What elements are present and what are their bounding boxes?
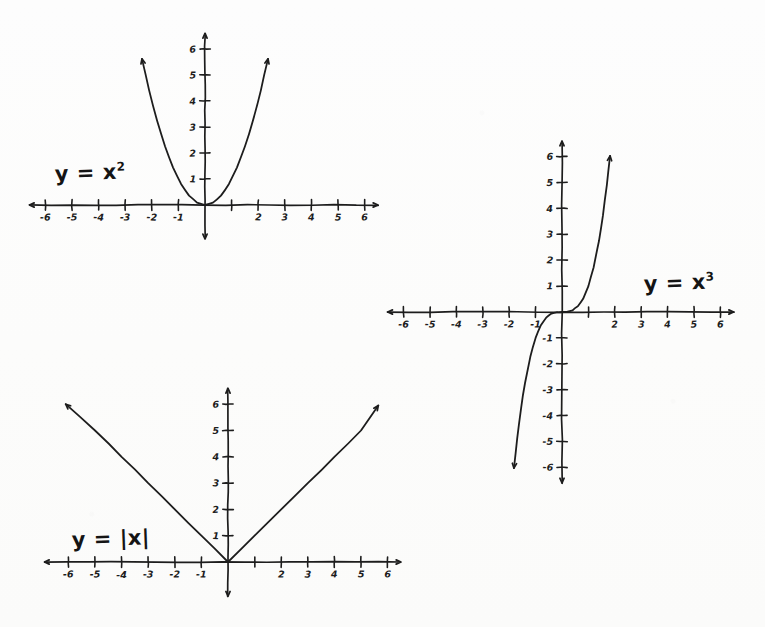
x-tick-label: -5 — [90, 568, 101, 579]
equation-label-cubic: y = x3 — [643, 270, 715, 296]
chart-parabola: -6-5-4-3-2-123456123456y = x2 — [29, 33, 378, 238]
equation-text: y = x2 — [54, 160, 126, 186]
equation-label-parabola: y = x2 — [54, 160, 126, 186]
y-tick-label: 3 — [189, 121, 196, 132]
y-tick-label: 4 — [545, 203, 554, 214]
y-tick-label: -5 — [542, 436, 553, 447]
x-axis-line — [45, 562, 401, 563]
y-tick-label: 2 — [546, 254, 554, 265]
y-tick-label: -6 — [542, 461, 554, 473]
y-tick-label: 6 — [212, 399, 219, 410]
y-axis-absolute-value — [226, 388, 230, 596]
y-axis-parabola — [203, 33, 207, 238]
x-tick-label: -2 — [504, 318, 515, 329]
y-tick-label: 2 — [189, 147, 196, 158]
y-ticks-absolute-value: 123456 — [211, 399, 233, 542]
x-tick-label: 3 — [281, 211, 288, 222]
equation-label-absolute-value: y = |x| — [71, 525, 150, 553]
x-tick-label: 3 — [304, 568, 311, 579]
y-axis-line — [228, 388, 229, 596]
x-tick-label: -6 — [63, 568, 74, 579]
x-tick-label: 5 — [358, 568, 365, 579]
x-tick-label: 2 — [255, 211, 262, 222]
y-tick-label: -1 — [542, 332, 553, 343]
y-tick-label: 2 — [212, 504, 219, 515]
equation-text: y = x3 — [643, 270, 715, 296]
y-tick-label: -4 — [542, 410, 553, 421]
x-tick-label: -3 — [143, 568, 154, 579]
chart-absolute-value: -6-5-4-3-2-123456123456y = |x| — [44, 388, 400, 596]
x-tick-label: 4 — [330, 568, 338, 579]
x-tick-label: -4 — [451, 318, 462, 329]
x-tick-label: 4 — [663, 318, 672, 329]
x-tick-label: -3 — [477, 318, 489, 330]
x-axis-absolute-value — [44, 560, 400, 564]
y-tick-label: 5 — [546, 177, 553, 188]
x-tick-label: 6 — [717, 318, 724, 329]
x-tick-label: -6 — [40, 211, 51, 222]
x-tick-label: -6 — [398, 318, 409, 329]
y-axis-line — [205, 34, 206, 239]
equation-text: y = |x| — [71, 525, 150, 553]
x-tick-label: -5 — [425, 318, 436, 329]
equation-exponent: 3 — [705, 270, 714, 284]
x-tick-label: -1 — [173, 211, 184, 222]
y-tick-label: 6 — [546, 151, 553, 162]
y-tick-label: 5 — [212, 425, 219, 436]
y-tick-label: 5 — [189, 69, 196, 80]
y-tick-label: 6 — [189, 43, 197, 54]
x-tick-label: -5 — [67, 211, 78, 222]
x-tick-label: -4 — [116, 569, 127, 580]
chart-cubic: -6-5-4-3-2-123456-6-5-4-3-2-1123456y = x… — [387, 141, 734, 483]
y-tick-label: 1 — [212, 530, 219, 541]
y-tick-label: 4 — [188, 95, 197, 106]
x-tick-label: 5 — [335, 211, 342, 222]
y-tick-label: 3 — [546, 229, 553, 240]
x-tick-label: 6 — [384, 568, 392, 579]
y-tick-label: -2 — [542, 358, 553, 369]
x-tick-label: -1 — [196, 568, 207, 579]
x-tick-label: 4 — [307, 211, 315, 222]
x-tick-label: 2 — [278, 568, 285, 579]
y-ticks-parabola: 123456 — [188, 43, 210, 184]
x-tick-label: 5 — [690, 318, 698, 329]
y-tick-label: -3 — [542, 384, 553, 395]
y-tick-label: 3 — [212, 477, 219, 488]
x-tick-label: 2 — [611, 318, 619, 329]
y-tick — [557, 364, 568, 365]
x-tick-label: -4 — [93, 211, 104, 222]
equation-exponent: 2 — [116, 160, 125, 174]
x-tick-label: -2 — [146, 211, 157, 222]
x-tick-label: -2 — [169, 568, 180, 579]
x-tick-label: 6 — [361, 211, 368, 222]
x-tick-label: 3 — [638, 318, 645, 329]
y-tick-label: 1 — [546, 280, 553, 291]
x-tick-label: -3 — [120, 211, 131, 222]
y-tick-label: 1 — [189, 173, 196, 184]
y-tick-label: 4 — [211, 451, 219, 462]
graph-canvas: -6-5-4-3-2-123456123456y = x2-6-5-4-3-2-… — [0, 0, 765, 627]
